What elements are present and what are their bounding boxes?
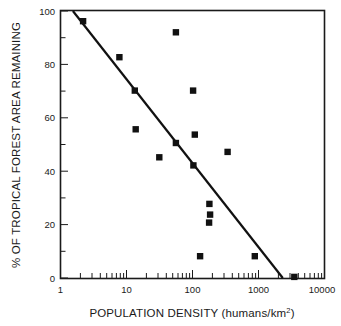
data-point bbox=[80, 18, 86, 24]
data-point bbox=[192, 131, 198, 137]
y-tick-label: 0 bbox=[50, 273, 55, 284]
y-tick-label: 20 bbox=[44, 219, 55, 230]
data-points bbox=[80, 18, 298, 280]
y-axis-title: % OF TROPICAL FOREST AREA REMAINING bbox=[10, 22, 22, 268]
data-point bbox=[133, 126, 139, 132]
x-axis-title: POPULATION DENSITY (humans/km2) bbox=[89, 306, 294, 319]
x-tick-labels: 1 10 100 1000 10000 bbox=[58, 284, 335, 295]
x-tick-label: 10 bbox=[121, 284, 132, 295]
data-point bbox=[190, 162, 196, 168]
y-tick-labels: 100 80 60 40 20 0 bbox=[39, 6, 55, 284]
data-point bbox=[252, 253, 258, 259]
data-point bbox=[291, 274, 297, 280]
data-point bbox=[173, 29, 179, 35]
plot-frame bbox=[61, 11, 325, 279]
data-point bbox=[224, 149, 230, 155]
data-point bbox=[116, 54, 122, 60]
x-tick-label: 1000 bbox=[248, 284, 269, 295]
data-point bbox=[173, 140, 179, 146]
x-axis-ticks bbox=[61, 270, 325, 278]
figure-container: 100 80 60 40 20 0 1 10 100 1000 10000 PO… bbox=[0, 0, 341, 326]
data-point bbox=[206, 201, 212, 207]
y-tick-label: 100 bbox=[39, 6, 55, 17]
data-point bbox=[190, 87, 196, 93]
axes-box bbox=[61, 11, 325, 279]
y-axis-title-text: % OF TROPICAL FOREST AREA REMAINING bbox=[10, 22, 22, 268]
data-point bbox=[156, 154, 162, 160]
y-tick-label: 60 bbox=[44, 112, 55, 123]
data-point bbox=[132, 87, 138, 93]
x-tick-label: 10000 bbox=[309, 284, 335, 295]
y-tick-label: 40 bbox=[44, 166, 55, 177]
scatter-plot: 100 80 60 40 20 0 1 10 100 1000 10000 PO… bbox=[0, 0, 341, 326]
x-tick-label: 1 bbox=[58, 284, 63, 295]
svg-text:POPULATION DENSITY (humans/km2: POPULATION DENSITY (humans/km2) bbox=[89, 306, 294, 319]
x-axis-title-main: POPULATION DENSITY (humans/km bbox=[89, 307, 286, 319]
y-tick-label: 80 bbox=[44, 59, 55, 70]
x-tick-label: 100 bbox=[185, 284, 201, 295]
y-axis-ticks bbox=[61, 11, 69, 278]
x-axis-title-tail: ) bbox=[291, 307, 295, 319]
data-point bbox=[207, 211, 213, 217]
data-point bbox=[206, 219, 212, 225]
data-point bbox=[197, 253, 203, 259]
